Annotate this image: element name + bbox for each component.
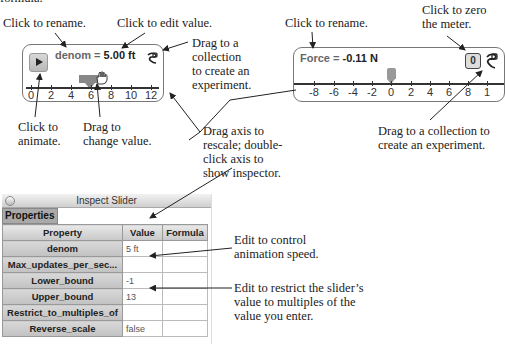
- callout-arrows: [0, 0, 496, 346]
